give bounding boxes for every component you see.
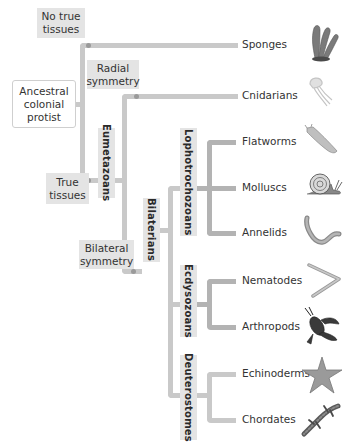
clade-bilaterians: Bilaterians xyxy=(143,198,160,262)
clade-eumetazoans: Eumetazoans xyxy=(98,128,115,198)
branch-main-trunk xyxy=(80,43,85,183)
label-no-true-tissues: No true tissues xyxy=(37,8,85,38)
label-radial-symmetry: Radial symmetry xyxy=(87,60,139,89)
branch-annelids xyxy=(207,231,236,236)
taxon-chordates: Chordates xyxy=(242,413,296,425)
node-bilateral-symmetry xyxy=(131,269,136,274)
branch-arthropods xyxy=(207,325,236,330)
taxon-annelids: Annelids xyxy=(242,226,287,238)
node-radial-symmetry xyxy=(134,94,139,99)
clade-lophotrochozoans: Lophotrochozoans xyxy=(180,128,197,236)
snail-icon xyxy=(305,170,343,198)
branch-deut-vertical xyxy=(207,372,212,422)
jellyfish-icon xyxy=(305,74,335,110)
branch-chordates xyxy=(207,418,236,423)
branch-nematodes xyxy=(207,279,236,284)
taxon-nematodes: Nematodes xyxy=(242,274,302,286)
node-no-true-tissues xyxy=(86,43,91,48)
branch-flatworms xyxy=(207,140,236,145)
branch-cnidarians xyxy=(122,94,238,99)
flatworm-icon xyxy=(303,124,341,156)
taxon-molluscs: Molluscs xyxy=(242,181,287,193)
taxon-cnidarians: Cnidarians xyxy=(242,89,298,101)
nematode-icon xyxy=(305,262,343,298)
taxon-sponges: Sponges xyxy=(242,38,287,50)
branch-bilaterian-trunk xyxy=(168,186,173,398)
lobster-icon xyxy=(303,306,343,346)
taxon-flatworms: Flatworms xyxy=(242,135,296,147)
root-ancestral-colonial-protist: Ancestral colonial protist xyxy=(12,80,76,128)
salamander-icon xyxy=(300,400,344,440)
clade-ecdysozoans: Ecdysozoans xyxy=(180,265,197,337)
label-bilateral-symmetry: Bilateral symmetry xyxy=(79,240,134,269)
earthworm-icon xyxy=(303,214,343,248)
branch-ecdy-vertical xyxy=(207,279,212,329)
sponge-icon xyxy=(305,20,341,62)
label-true-tissues: True tissues xyxy=(46,173,89,204)
branch-sponges xyxy=(80,43,238,48)
branch-molluscs xyxy=(207,186,236,191)
clade-deuterostomes: Deuterostomes xyxy=(180,355,197,440)
branch-echinoderms xyxy=(207,372,236,377)
taxon-arthropods: Arthropods xyxy=(242,320,300,332)
starfish-icon xyxy=(300,355,344,395)
